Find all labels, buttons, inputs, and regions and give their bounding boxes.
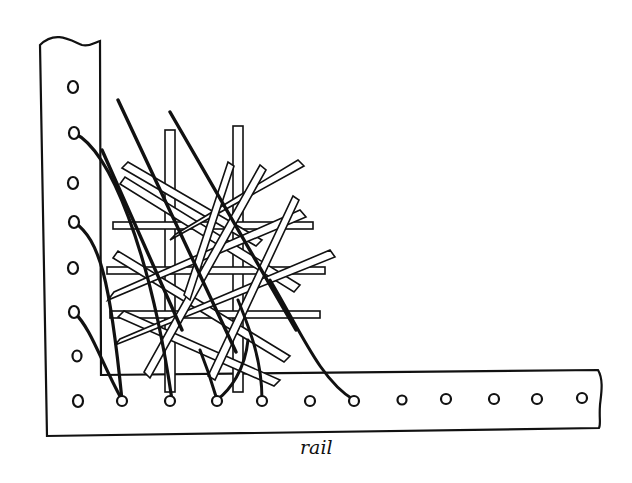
bottom-rail-holes — [73, 393, 587, 407]
rail-caption: rail — [300, 436, 333, 458]
rail-frame — [40, 37, 602, 436]
weaving-illustration — [0, 0, 632, 483]
